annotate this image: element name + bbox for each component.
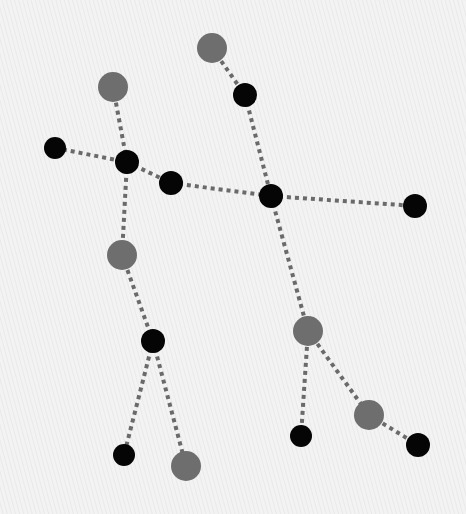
star-node-n4 bbox=[44, 137, 66, 159]
star-node-n2 bbox=[98, 72, 128, 102]
edge-n10-n14 bbox=[153, 341, 186, 466]
star-node-n8 bbox=[403, 194, 427, 218]
constellation-diagram bbox=[0, 0, 466, 514]
star-node-n3 bbox=[233, 83, 257, 107]
edge-n7-n11 bbox=[271, 196, 308, 331]
star-node-n10 bbox=[141, 329, 165, 353]
edge-n10-n13 bbox=[124, 341, 153, 455]
star-node-n14 bbox=[171, 451, 201, 481]
constellation-canvas bbox=[0, 0, 466, 514]
star-node-n5 bbox=[115, 150, 139, 174]
star-node-n1 bbox=[197, 33, 227, 63]
edge-n7-n8 bbox=[271, 196, 415, 206]
star-node-n6 bbox=[159, 171, 183, 195]
star-node-n16 bbox=[406, 433, 430, 457]
edge-n3-n7 bbox=[245, 95, 271, 196]
star-node-n15 bbox=[290, 425, 312, 447]
star-node-n9 bbox=[107, 240, 137, 270]
edge-n11-n12 bbox=[308, 331, 369, 415]
star-node-n13 bbox=[113, 444, 135, 466]
star-node-n12 bbox=[354, 400, 384, 430]
edge-n6-n7 bbox=[171, 183, 271, 196]
edge-n11-n15 bbox=[301, 331, 308, 436]
star-node-n11 bbox=[293, 316, 323, 346]
star-node-n7 bbox=[259, 184, 283, 208]
node-layer bbox=[44, 33, 430, 481]
